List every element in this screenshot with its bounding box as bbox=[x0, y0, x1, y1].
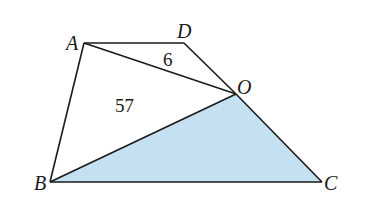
label-o: O bbox=[237, 76, 251, 98]
shaded-triangle-boc bbox=[50, 94, 322, 182]
trapezoid-diagram: A D O B C 6 57 bbox=[0, 0, 372, 222]
label-c: C bbox=[324, 172, 338, 194]
area-label-aob: 57 bbox=[115, 95, 134, 116]
label-d: D bbox=[176, 20, 192, 42]
area-label-aod: 6 bbox=[163, 49, 173, 70]
diagonal-a-o bbox=[84, 43, 236, 94]
edge-a-b bbox=[50, 43, 84, 182]
label-b: B bbox=[34, 172, 46, 194]
edge-d-o bbox=[184, 43, 236, 94]
label-a: A bbox=[64, 32, 79, 54]
